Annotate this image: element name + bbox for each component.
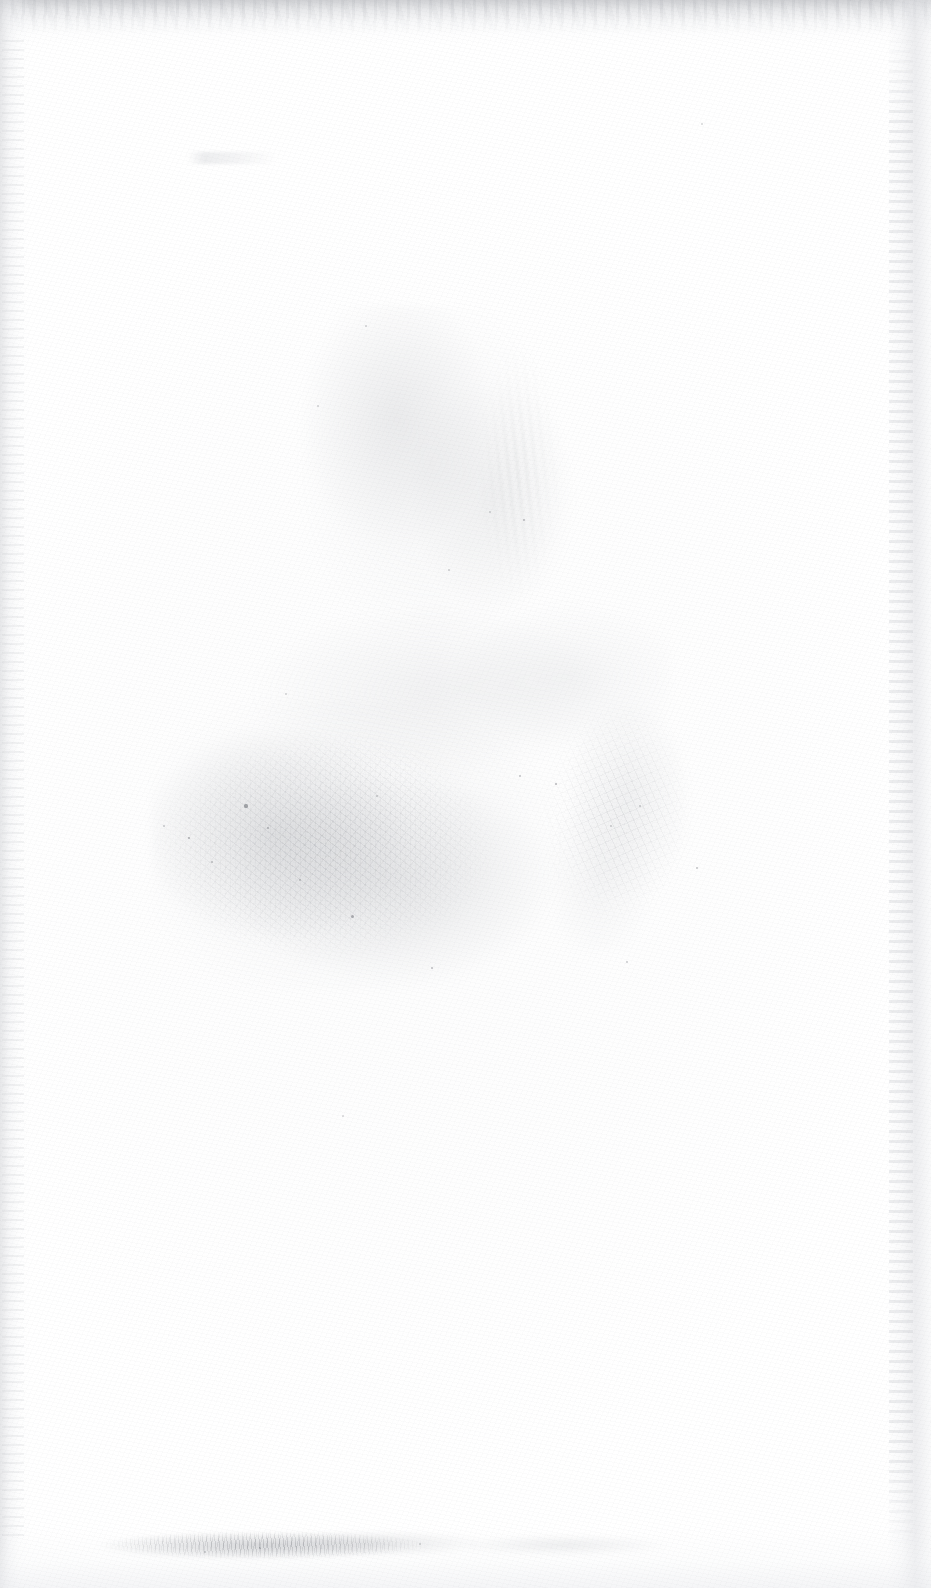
scanned-page: Blank scanned page with no printed text …: [0, 0, 931, 1588]
page-background: [0, 0, 931, 1588]
